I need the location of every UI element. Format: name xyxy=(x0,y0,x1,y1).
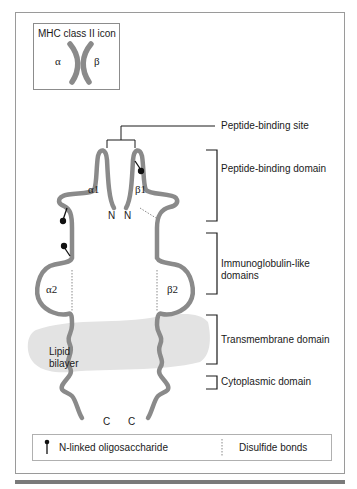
legend-oligosaccharide-label: N-linked oligosaccharide xyxy=(59,442,168,454)
peptide-binding-domain-label: Peptide-binding domain xyxy=(221,163,326,175)
disulfide-bonds xyxy=(72,208,157,312)
domain-brackets xyxy=(206,150,217,389)
n-terminus-alpha: N xyxy=(108,210,115,222)
peptide-site-bracket xyxy=(107,126,215,148)
immunoglobulin-domains-label-line2: domains xyxy=(221,270,259,282)
cytoplasmic-domain-label: Cytoplasmic domain xyxy=(221,376,311,388)
beta2-label: β2 xyxy=(167,283,178,295)
legend-box: N-linked oligosaccharide Disulfide bonds xyxy=(32,434,332,461)
alpha1-label: α1 xyxy=(88,183,99,195)
c-terminus-alpha: C xyxy=(103,416,110,428)
peptide-binding-site-label: Peptide-binding site xyxy=(221,120,309,132)
immunoglobulin-domains-label-line1: Immunoglobulin-like xyxy=(221,258,310,270)
mhc-icon-glyph xyxy=(70,44,91,82)
mhc-class-ii-diagram xyxy=(0,0,357,489)
beta1-label: β1 xyxy=(135,183,146,195)
transmembrane-domain-label: Transmembrane domain xyxy=(221,334,330,346)
n-terminus-beta: N xyxy=(124,210,131,222)
lipid-bilayer-label-line2: bilayer xyxy=(49,358,78,370)
alpha2-label: α2 xyxy=(46,283,57,295)
c-terminus-beta: C xyxy=(128,416,135,428)
legend-disulfide-label: Disulfide bonds xyxy=(239,442,307,454)
bottom-rule xyxy=(15,480,345,484)
lipid-bilayer-label-line1: Lipid xyxy=(49,346,70,358)
